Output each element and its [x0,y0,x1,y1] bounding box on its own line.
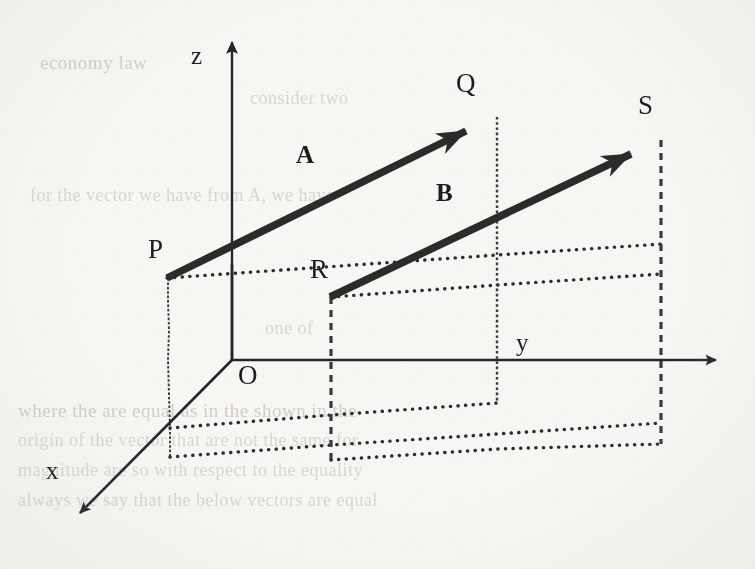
vector-label-a: A [296,142,314,167]
point-label-p: P [148,236,163,263]
vector-label-b: B [436,180,453,205]
axis-label-z: z [191,43,202,68]
point-label-s: S [638,92,653,119]
guide-dotted-lower-left [170,403,497,428]
axis-label-x: x [46,458,59,483]
point-label-o: O [238,362,258,389]
guide-dotted-lower-right [170,423,661,457]
projection-guides [167,244,661,460]
vector-diagram-svg [0,0,755,569]
figure-canvas: economy law consider two for the vector … [0,0,755,569]
point-label-q: Q [456,70,476,97]
drop-lines [168,117,661,460]
axis-label-y: y [516,330,529,355]
point-label-r: R [310,256,328,283]
drop-line-p [168,278,170,457]
x-axis [80,360,232,513]
guide-dotted-bottom [331,444,661,460]
